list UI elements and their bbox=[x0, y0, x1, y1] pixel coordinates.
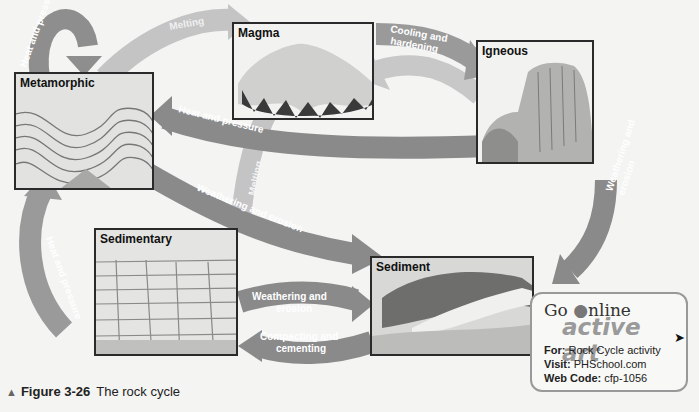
panel-sedimentary: Sedimentary bbox=[94, 228, 238, 356]
for-row: For: Rock Cycle activity bbox=[544, 344, 661, 356]
sedimentary-illustration bbox=[96, 230, 238, 356]
cursor-icon: ➤ bbox=[674, 330, 685, 345]
panel-igneous: Igneous bbox=[476, 40, 594, 164]
visit-link: PHSchool.com bbox=[571, 358, 647, 370]
figure-caption: ▲Figure 3-26The rock cycle bbox=[6, 384, 180, 399]
figure-number: Figure 3-26 bbox=[21, 384, 90, 399]
metamorphic-illustration bbox=[16, 74, 154, 190]
panel-title: Magma bbox=[238, 26, 279, 40]
web-code-row: Web Code: cfp-1056 bbox=[544, 372, 647, 384]
igneous-illustration bbox=[478, 42, 594, 164]
label-sed-weathering-2: erosion bbox=[276, 303, 312, 314]
go-online-box[interactable]: Go ●nline active art ➤ For: Rock Cycle a… bbox=[530, 292, 688, 392]
panel-title: Metamorphic bbox=[20, 76, 95, 90]
label-compacting-2: cementing bbox=[276, 343, 326, 354]
visit-row[interactable]: Visit: PHSchool.com bbox=[544, 358, 647, 370]
label-igneous-melting: Melting bbox=[398, 81, 435, 99]
triangle-icon: ▲ bbox=[6, 386, 17, 398]
panel-sediment: Sediment bbox=[370, 256, 534, 356]
panel-metamorphic: Metamorphic bbox=[14, 72, 154, 190]
panel-title: Sedimentary bbox=[100, 232, 172, 246]
panel-title: Igneous bbox=[482, 44, 528, 58]
label-compacting-1: Compacting and bbox=[260, 331, 338, 342]
figure-caption-text: The rock cycle bbox=[96, 384, 180, 399]
label-sed-weathering-1: Weathering and bbox=[252, 291, 327, 302]
panel-title: Sediment bbox=[376, 260, 430, 274]
panel-magma: Magma bbox=[232, 22, 374, 120]
